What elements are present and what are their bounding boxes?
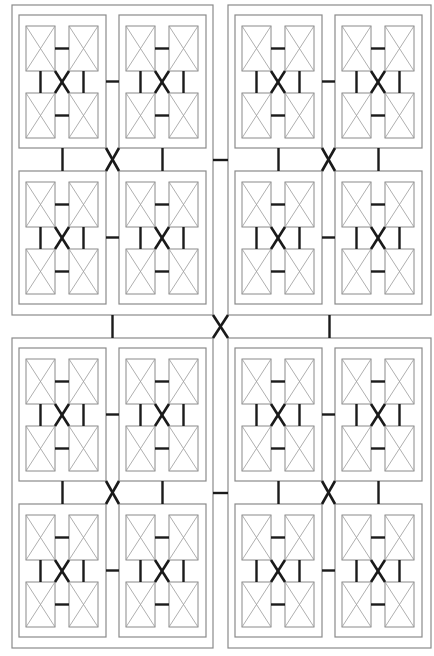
block-diagram [0, 0, 434, 656]
